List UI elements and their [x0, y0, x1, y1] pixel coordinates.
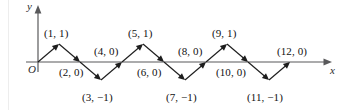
point-label-10-0: (10, 0): [216, 67, 246, 78]
zig-segment-3-4: [101, 65, 119, 80]
zig-segment-5-6: [143, 44, 161, 59]
point-label-7-m1: (7, −1): [166, 92, 197, 103]
point-label-9-1: (9, 1): [212, 28, 236, 39]
point-label-4-0: (4, 0): [94, 46, 118, 57]
y-axis-label: y: [27, 1, 32, 12]
zig-segment-7-8: [185, 65, 203, 80]
point-label-8-0: (8, 0): [178, 46, 202, 57]
point-label-3-m1: (3, −1): [82, 92, 113, 103]
zig-segment-10-11: [248, 62, 266, 77]
zig-segment-0-1: [38, 47, 56, 62]
point-label-5-1: (5, 1): [128, 28, 152, 39]
zig-segment-11-12: [269, 65, 287, 80]
y-axis-arrowhead: [35, 5, 42, 14]
point-label-1-1: (1, 1): [44, 28, 68, 39]
zig-segment-4-5: [122, 47, 140, 62]
zig-segment-6-7: [164, 62, 182, 77]
point-label-6-0: (6, 0): [137, 67, 161, 78]
point-label-12-0: (12, 0): [277, 46, 307, 57]
point-label-2-0: (2, 0): [59, 67, 83, 78]
x-axis-label: x: [330, 65, 335, 76]
zigzag-graph-figure: y x O (1, 1) (2, 0) (3, −1) (4, 0) (5, 1…: [0, 0, 342, 110]
origin-label: O: [28, 64, 36, 75]
zig-segment-9-10: [227, 44, 245, 59]
point-label-11-m1: (11, −1): [247, 92, 283, 103]
zig-segment-8-9: [206, 47, 224, 62]
zig-segment-1-2: [59, 44, 77, 59]
